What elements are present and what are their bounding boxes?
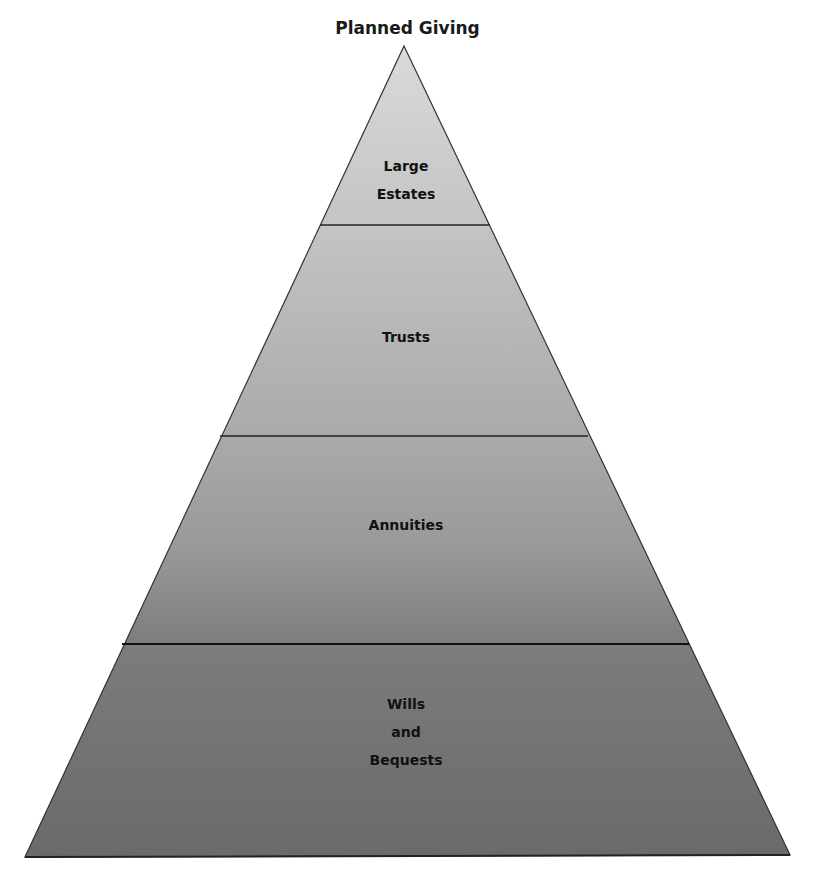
level-label-line: Estates	[286, 180, 526, 208]
level-label-line: Wills	[286, 690, 526, 718]
level-label-line: Annuities	[286, 511, 526, 539]
level-trusts: Trusts	[286, 323, 526, 351]
level-large-estates: Large Estates	[286, 152, 526, 208]
level-label-line: and	[286, 718, 526, 746]
level-label-line: Trusts	[286, 323, 526, 351]
level-label-line: Bequests	[286, 746, 526, 774]
level-wills-bequests: Wills and Bequests	[286, 690, 526, 774]
level-label-line: Large	[286, 152, 526, 180]
level-annuities: Annuities	[286, 511, 526, 539]
